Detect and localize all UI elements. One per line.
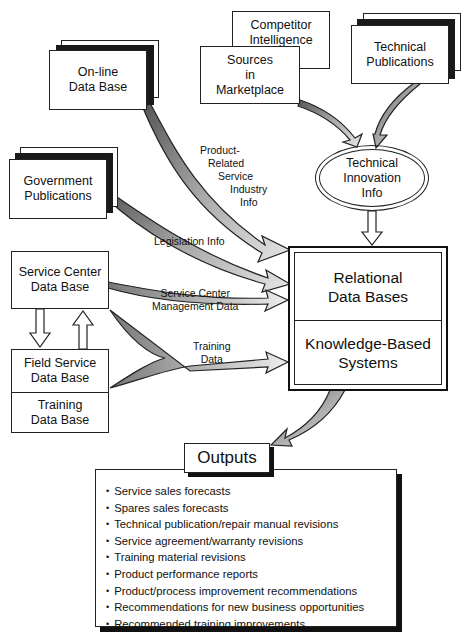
outputs-list-box: Service sales forecasts Spares sales for… [95,469,397,627]
relational-db-section: Relational Data Bases [295,253,441,321]
government-publications-label: Government Publications [24,174,93,204]
training-db-section: Training Data Base [12,393,108,432]
knowledge-systems-label: Knowledge-Based Systems [305,334,431,372]
product-related-text-line: Product- [200,144,267,157]
source-government-publications: Government Publications [9,159,107,219]
technical-innovation-node: Technical Innovation Info [319,149,425,207]
online-db-label: On-line Data Base [69,65,127,95]
arrow-relational-to-outputs [271,390,345,446]
marketplace-label: Sources in Marketplace [216,53,284,98]
product-related-text-line: Industry [200,183,267,196]
service-center-db-label: Service Center Data Base [19,265,102,295]
product-related-line: Product-RelatedServiceIndustryInfo [200,144,267,209]
output-item: Service agreement/warranty revisions [106,534,396,551]
source-online-db: On-line Data Base [49,50,147,110]
competitor-intelligence-label: Competitor Intelligence [249,18,312,48]
outputs-list: Service sales forecasts Spares sales for… [106,484,396,633]
source-service-center-db: Service Center Data Base [11,251,109,309]
arrow-technical-pubs-to-innovation [373,83,420,148]
technical-publications-label: Technical Publications [366,40,433,70]
hub-relational-knowledge: Relational Data Bases Knowledge-Based Sy… [288,246,448,391]
product-related-text-line: Related [200,157,267,170]
output-item: Service sales forecasts [106,484,396,501]
output-item: Product/process improvement recommendati… [106,584,396,601]
arrow-up-field-to-servicecenter [73,311,93,349]
label-legislation: Legislation Info [154,235,225,248]
arrow-innovation-to-relational [362,211,382,245]
output-item: Recommended training improvements [106,617,396,634]
arrow-down-servicecenter-to-field [30,309,50,347]
knowledge-systems-section: Knowledge-Based Systems [295,321,441,384]
label-service-center-mgmt: Service Center Management Data [152,287,238,313]
technical-innovation-label: Technical Innovation Info [343,156,401,201]
source-field-training-db: Field Service Data Base Training Data Ba… [11,349,109,433]
output-item: Product performance reports [106,567,396,584]
output-item: Recommendations for new business opportu… [106,600,396,617]
output-item: Spares sales forecasts [106,501,396,518]
output-item: Training material revisions [106,550,396,567]
relational-db-label: Relational Data Bases [328,268,408,306]
label-product-related: Product-RelatedServiceIndustryInfo [200,144,267,209]
field-service-db-label: Field Service Data Base [24,356,96,386]
outputs-title: Outputs [184,443,270,473]
training-db-label: Training Data Base [31,398,89,428]
product-related-text-line: Service [200,170,267,183]
label-training-data: Training Data [193,340,231,366]
field-service-db-section: Field Service Data Base [12,350,108,393]
product-related-text-line: Info [200,196,267,209]
source-technical-publications: Technical Publications [351,25,449,84]
arrow-marketplace-to-innovation [298,100,362,147]
hub-inner-frame: Relational Data Bases Knowledge-Based Sy… [294,252,442,385]
output-item: Technical publication/repair manual revi… [106,517,396,534]
source-marketplace: Sources in Marketplace [200,46,300,104]
